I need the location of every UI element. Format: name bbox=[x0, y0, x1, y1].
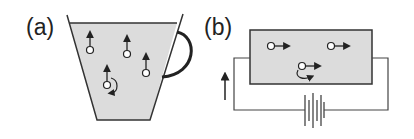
battery-icon bbox=[305, 93, 324, 128]
diagram-canvas bbox=[0, 0, 414, 139]
cup bbox=[67, 14, 191, 120]
cell bbox=[250, 30, 372, 84]
